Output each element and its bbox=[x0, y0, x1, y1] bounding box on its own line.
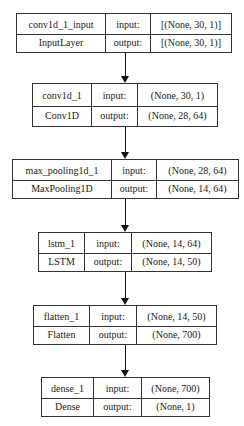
input-label: input: bbox=[92, 84, 138, 106]
output-label: output: bbox=[94, 397, 142, 416]
output-shape: (None, 14, 50) bbox=[132, 252, 211, 271]
output-label: output: bbox=[112, 179, 157, 198]
output-shape: (None, 1) bbox=[142, 397, 209, 416]
arrowhead-icon bbox=[121, 225, 129, 232]
input-label: input: bbox=[106, 14, 151, 34]
arrowhead-icon bbox=[121, 370, 129, 377]
input-shape: [(None, 30, 1)] bbox=[151, 14, 231, 34]
input-shape: (None, 14, 50) bbox=[137, 306, 216, 326]
layer-node-max-pooling1d-1: max_pooling1d_1 input: (None, 28, 64) Ma… bbox=[12, 159, 239, 199]
layer-class: InputLayer bbox=[17, 33, 106, 52]
output-label: output: bbox=[106, 33, 151, 52]
layer-name: lstm_1 bbox=[39, 233, 85, 253]
output-shape: (None, 14, 64) bbox=[157, 179, 238, 198]
input-label: input: bbox=[85, 233, 132, 253]
input-label: input: bbox=[112, 160, 157, 180]
arrowhead-icon bbox=[121, 152, 129, 159]
edge-line bbox=[125, 127, 126, 152]
layer-name: flatten_1 bbox=[34, 306, 90, 326]
layer-name: conv1d_1_input bbox=[17, 14, 106, 34]
layer-node-flatten-1: flatten_1 input: (None, 14, 50) Flatten … bbox=[33, 305, 217, 345]
input-shape: (None, 700) bbox=[142, 378, 209, 398]
output-label: output: bbox=[85, 252, 132, 271]
output-label: output: bbox=[90, 325, 137, 344]
layer-name: conv1d_1 bbox=[33, 84, 92, 106]
layer-name: max_pooling1d_1 bbox=[13, 160, 112, 180]
output-shape: [(None, 30, 1)] bbox=[151, 33, 231, 52]
layer-node-lstm-1: lstm_1 input: (None, 14, 64) LSTM output… bbox=[38, 232, 212, 272]
layer-class: Dense bbox=[42, 397, 94, 416]
arrowhead-icon bbox=[121, 298, 129, 305]
input-label: input: bbox=[94, 378, 142, 398]
edge-line bbox=[125, 272, 126, 298]
arrowhead-icon bbox=[121, 76, 129, 83]
input-shape: (None, 14, 64) bbox=[132, 233, 211, 253]
edge-line bbox=[125, 199, 126, 225]
layer-class: LSTM bbox=[39, 252, 85, 271]
edge-line bbox=[125, 345, 126, 370]
layer-node-conv1d-1: conv1d_1 input: (None, 30, 1) Conv1D out… bbox=[32, 83, 218, 127]
output-shape: (None, 28, 64) bbox=[138, 105, 217, 126]
input-label: input: bbox=[90, 306, 137, 326]
layer-node-conv1d-1-input: conv1d_1_input input: [(None, 30, 1)] In… bbox=[16, 13, 232, 53]
layer-class: Conv1D bbox=[33, 105, 92, 126]
output-shape: (None, 700) bbox=[137, 325, 216, 344]
layer-class: Flatten bbox=[34, 325, 90, 344]
edge-line bbox=[125, 53, 126, 77]
layer-node-dense-1: dense_1 input: (None, 700) Dense output:… bbox=[41, 377, 210, 417]
layer-class: MaxPooling1D bbox=[13, 179, 112, 198]
input-shape: (None, 30, 1) bbox=[138, 84, 217, 106]
output-label: output: bbox=[92, 105, 138, 126]
input-shape: (None, 28, 64) bbox=[157, 160, 238, 180]
layer-name: dense_1 bbox=[42, 378, 94, 398]
